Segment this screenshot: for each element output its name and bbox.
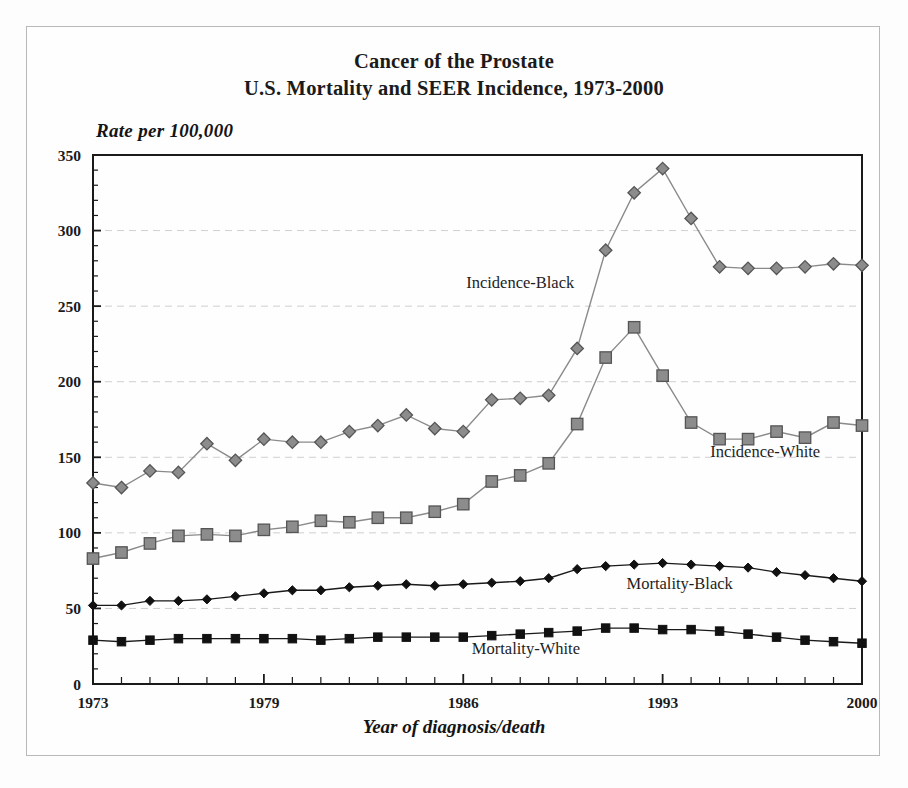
data-point-diamond [743, 563, 752, 572]
data-point-square [173, 530, 184, 541]
data-point-diamond [571, 342, 583, 354]
data-point-square [573, 627, 581, 635]
data-point-square [315, 515, 326, 526]
data-point-square [288, 634, 296, 642]
data-point-square [402, 633, 410, 641]
data-point-square [687, 625, 695, 633]
data-point-diamond [286, 436, 298, 448]
data-point-diamond [400, 409, 412, 421]
data-point-diamond [487, 578, 496, 587]
x-axis-tick-labels: 19731979198619932000 [78, 694, 878, 711]
data-point-square [516, 630, 524, 638]
data-point-diamond [373, 581, 382, 590]
data-point-square [201, 529, 212, 540]
data-point-diamond [343, 425, 355, 437]
series-mortality-black [88, 558, 866, 610]
data-point-diamond [857, 577, 866, 586]
data-point-diamond [315, 436, 327, 448]
x-tick-label: 2000 [847, 694, 878, 711]
data-point-square [630, 624, 638, 632]
x-axis-ticks [93, 674, 862, 684]
data-point-square [543, 458, 554, 469]
data-point-square [600, 352, 611, 363]
data-point-diamond [202, 595, 211, 604]
data-point-square [317, 636, 325, 644]
data-point-square [230, 530, 241, 541]
data-point-diamond [544, 574, 553, 583]
data-point-square [459, 633, 467, 641]
data-point-square [146, 636, 154, 644]
x-tick-label: 1993 [647, 694, 678, 711]
data-point-square [287, 521, 298, 532]
data-point-square [658, 625, 666, 633]
series-annotations: Incidence-BlackIncidence-WhiteMortality-… [466, 273, 820, 658]
series-annotation: Mortality-White [472, 639, 580, 658]
data-point-square [772, 633, 780, 641]
data-point-square [87, 553, 98, 564]
data-point-diamond [685, 212, 697, 224]
data-point-square [258, 524, 269, 535]
y-tick-label: 300 [58, 222, 82, 239]
data-point-square [260, 634, 268, 642]
data-point-diamond [516, 577, 525, 586]
data-point-square [657, 370, 668, 381]
data-point-diamond [372, 419, 384, 431]
data-point-diamond [402, 580, 411, 589]
data-point-diamond [288, 586, 297, 595]
data-point-diamond [742, 262, 754, 274]
chart-figure: Cancer of the Prostate U.S. Mortality an… [0, 0, 908, 788]
data-point-square [231, 634, 239, 642]
data-point-diamond [687, 560, 696, 569]
data-point-diamond [429, 422, 441, 434]
data-point-square [771, 426, 782, 437]
data-point-diamond [229, 454, 241, 466]
data-point-diamond [856, 259, 868, 271]
data-point-square [858, 639, 866, 647]
data-point-square [744, 630, 752, 638]
y-tick-label: 0 [73, 676, 81, 693]
data-point-square [544, 628, 552, 636]
data-point-square [372, 512, 383, 523]
data-point-diamond [715, 562, 724, 571]
data-point-square [628, 322, 639, 333]
data-point-square [458, 498, 469, 509]
x-tick-label: 1979 [248, 694, 279, 711]
data-point-square [431, 633, 439, 641]
data-point-diamond [799, 261, 811, 273]
data-point-diamond [543, 389, 555, 401]
data-point-diamond [829, 574, 838, 583]
data-point-diamond [258, 433, 270, 445]
data-point-diamond [599, 244, 611, 256]
data-point-square [174, 634, 182, 642]
plot-axes-frame [93, 155, 862, 684]
x-tick-label: 1973 [78, 694, 109, 711]
data-point-square [828, 417, 839, 428]
data-point-diamond [316, 586, 325, 595]
data-point-square [856, 420, 867, 431]
data-point-square [715, 627, 723, 635]
data-point-diamond [800, 571, 809, 580]
data-point-diamond [459, 580, 468, 589]
data-point-square [374, 633, 382, 641]
data-point-square [344, 517, 355, 528]
series-annotation: Mortality-Black [627, 574, 734, 593]
data-series-layer [87, 162, 868, 647]
data-point-square [401, 512, 412, 523]
plot-frame [93, 155, 862, 684]
data-point-square [685, 417, 696, 428]
data-point-diamond [772, 568, 781, 577]
data-point-diamond [630, 560, 639, 569]
data-point-diamond [514, 392, 526, 404]
y-axis-tick-labels: 050100150200250300350 [58, 147, 82, 693]
data-point-square [117, 637, 125, 645]
y-tick-label: 250 [58, 298, 82, 315]
data-point-square [144, 538, 155, 549]
data-point-square [571, 418, 582, 429]
data-point-diamond [145, 596, 154, 605]
data-point-diamond [601, 562, 610, 571]
plot-canvas: Incidence-BlackIncidence-WhiteMortality-… [0, 0, 908, 788]
data-point-square [345, 634, 353, 642]
data-point-diamond [231, 592, 240, 601]
data-point-diamond [430, 581, 439, 590]
data-point-diamond [713, 261, 725, 273]
